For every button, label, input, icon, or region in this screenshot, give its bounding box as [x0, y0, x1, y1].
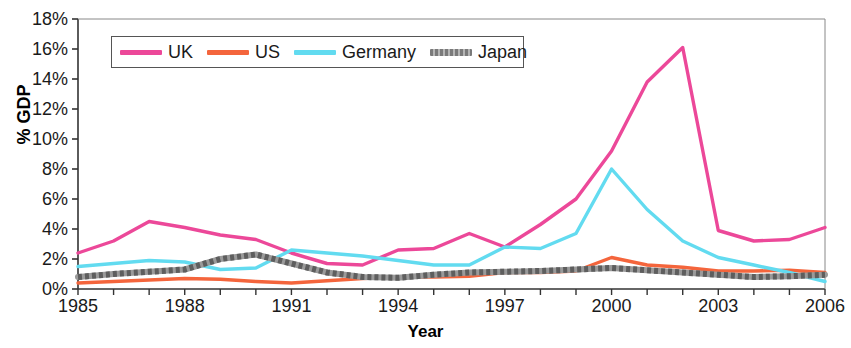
series-germany [78, 169, 825, 282]
x-tick-label: 2006 [805, 296, 845, 317]
legend-item-uk: UK [120, 42, 193, 63]
legend-item-japan: Japan [430, 42, 527, 63]
x-tick-label: 1985 [58, 296, 98, 317]
series-uk [78, 48, 825, 266]
line-chart: % GDP 18%16%14%12%10%8%6%4%2%0% 19851988… [0, 0, 851, 348]
legend-label: UK [168, 42, 193, 63]
legend-swatch-uk [120, 50, 162, 55]
legend-swatch-japan [430, 49, 472, 56]
x-tick-label: 1991 [271, 296, 311, 317]
x-tick-label: 2000 [592, 296, 632, 317]
x-axis-tick-labels: 19851988199119941997200020032006 [0, 296, 851, 322]
x-tick-label: 2003 [698, 296, 738, 317]
legend: UKUSGermanyJapan [111, 36, 524, 68]
legend-item-us: US [207, 42, 280, 63]
x-axis-ticks [78, 289, 825, 295]
x-axis-title: Year [0, 322, 851, 342]
legend-swatch-germany [294, 50, 336, 55]
y-axis-ticks [72, 19, 78, 289]
x-tick-label: 1994 [378, 296, 418, 317]
legend-label: Japan [478, 42, 527, 63]
legend-label: US [255, 42, 280, 63]
legend-swatch-us [207, 50, 249, 55]
legend-item-germany: Germany [294, 42, 416, 63]
x-tick-label: 1997 [485, 296, 525, 317]
legend-label: Germany [342, 42, 416, 63]
x-tick-label: 1988 [165, 296, 205, 317]
